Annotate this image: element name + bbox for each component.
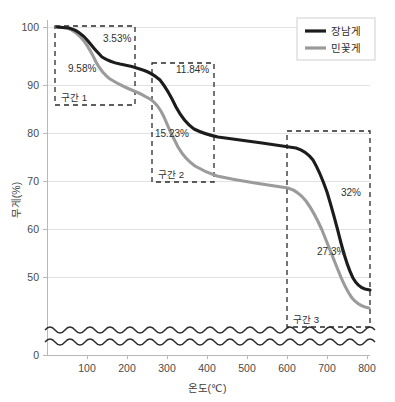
annotation-11-84: 11.84% bbox=[176, 64, 209, 75]
axis-break-wave bbox=[45, 327, 375, 345]
y-axis-title: 무게(%) bbox=[10, 182, 22, 218]
x-tick-label-600: 600 bbox=[278, 362, 296, 374]
x-tick-label-200: 200 bbox=[118, 362, 136, 374]
legend-label-0[interactable]: 장남게 bbox=[331, 25, 361, 37]
region-2-label: 구간 2 bbox=[158, 169, 184, 180]
region-1-label: 구간 1 bbox=[61, 92, 87, 103]
y-tick-labels: 100 90 80 70 60 50 0 bbox=[21, 21, 39, 361]
x-tick-label-500: 500 bbox=[238, 362, 256, 374]
x-tick-label-300: 300 bbox=[158, 362, 176, 374]
break-wave-bottom bbox=[45, 339, 375, 345]
x-tick-label-700: 700 bbox=[318, 362, 336, 374]
gridlines bbox=[47, 27, 370, 355]
annotation-32: 32% bbox=[341, 187, 361, 198]
x-tick-label-400: 400 bbox=[198, 362, 216, 374]
y-tick-label-80: 80 bbox=[27, 127, 39, 139]
y-tick-label-0: 0 bbox=[33, 349, 39, 361]
region-3-label: 구간 3 bbox=[293, 314, 319, 325]
legend[interactable]: 장남게 민꽃게 bbox=[297, 18, 375, 60]
y-tick-label-100: 100 bbox=[21, 21, 39, 33]
x-tick-labels: 100 200 300 400 500 600 700 800 bbox=[78, 362, 376, 374]
chart-canvas: 100 90 80 70 60 50 0 100 200 300 400 500… bbox=[0, 0, 395, 402]
x-tick-label-100: 100 bbox=[78, 362, 96, 374]
annotation-27-3: 27.3% bbox=[317, 246, 345, 257]
series-line-gray bbox=[57, 27, 369, 308]
tga-chart: 100 90 80 70 60 50 0 100 200 300 400 500… bbox=[0, 0, 395, 402]
x-axis-title: 온도(℃) bbox=[188, 382, 227, 394]
break-wave-top bbox=[45, 327, 375, 333]
y-tick-label-50: 50 bbox=[27, 271, 39, 283]
y-tick-label-70: 70 bbox=[27, 175, 39, 187]
annotation-3-53: 3.53% bbox=[103, 33, 131, 44]
annotation-9-58: 9.58% bbox=[68, 63, 96, 74]
annotation-15-23: 15.23% bbox=[155, 128, 189, 139]
x-tick-label-800: 800 bbox=[358, 362, 376, 374]
legend-label-1[interactable]: 민꽃게 bbox=[331, 42, 361, 54]
y-tick-label-60: 60 bbox=[27, 223, 39, 235]
y-tick-label-90: 90 bbox=[27, 79, 39, 91]
